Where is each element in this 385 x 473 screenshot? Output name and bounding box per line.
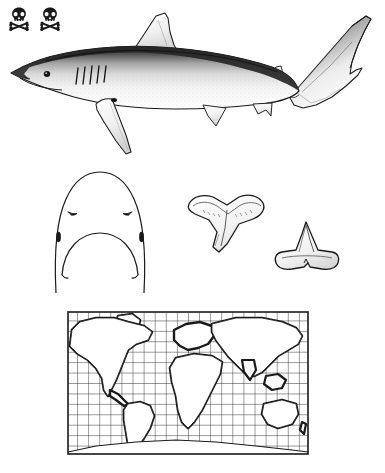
labial-furrow-right bbox=[139, 232, 144, 242]
caudal-fin bbox=[290, 16, 371, 108]
labial-furrow-left bbox=[56, 232, 61, 242]
pectoral-fin bbox=[96, 99, 131, 154]
figure-lateral-view bbox=[0, 4, 385, 154]
anal-fin bbox=[253, 103, 272, 116]
figure-upper-tooth bbox=[183, 188, 271, 254]
land-new-zealand bbox=[300, 422, 306, 434]
lower-tooth-shape bbox=[275, 222, 339, 269]
figure-lower-tooth bbox=[272, 218, 342, 276]
shark-body-group bbox=[11, 13, 371, 154]
figure-distribution-map bbox=[66, 310, 310, 456]
upper-tooth-shape bbox=[188, 195, 264, 252]
pelvic-fin bbox=[203, 105, 226, 126]
figure-ventral-head bbox=[50, 163, 150, 293]
species-plate bbox=[0, 0, 385, 473]
eye bbox=[44, 71, 50, 77]
pectoral-base-mark bbox=[111, 98, 117, 102]
land-southeast-asia bbox=[264, 374, 286, 390]
head-outline-group bbox=[55, 172, 144, 293]
